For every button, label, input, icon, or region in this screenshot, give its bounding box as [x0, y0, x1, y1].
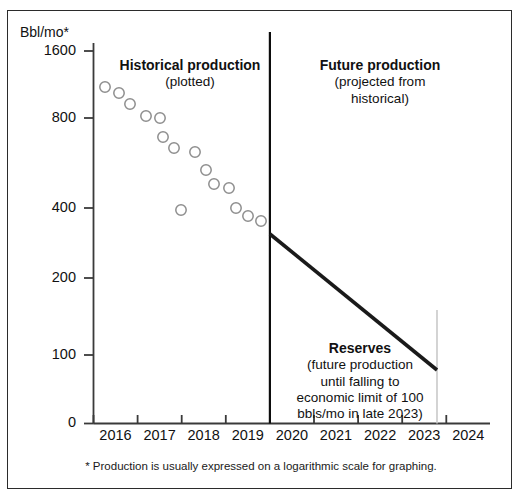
data-point: [190, 147, 200, 157]
chart-figure: Bbl/mo* 1600 800 400 200 100 0 2016 2017…: [0, 0, 522, 500]
x-tick-label-2020: 2020: [267, 427, 317, 445]
y-tick-label-100: 100: [18, 346, 76, 364]
y-tick-label-200: 200: [18, 269, 76, 287]
annotation-historical-header: Historical production: [110, 57, 270, 74]
data-point: [155, 113, 165, 123]
x-tick-label-2019: 2019: [223, 427, 273, 445]
y-tick-label-1600: 1600: [18, 42, 76, 60]
annotation-reserves-line3: economic limit of 100: [276, 390, 444, 406]
data-point: [243, 211, 253, 221]
chart-footnote: * Production is usually expressed on a l…: [0, 459, 522, 473]
data-point: [141, 111, 151, 121]
annotation-future-line2: historical): [290, 91, 470, 107]
data-point: [209, 179, 219, 189]
data-point: [125, 99, 135, 109]
y-tick-label-0: 0: [18, 414, 76, 432]
x-tick-label-2016: 2016: [91, 427, 141, 445]
data-point-outlier: [176, 205, 186, 215]
annotation-reserves-line4: bbls/mo in late 2023): [276, 406, 444, 422]
annotation-reserves-line2: until falling to: [276, 374, 444, 390]
x-tick-label-2017: 2017: [135, 427, 185, 445]
data-point: [224, 183, 234, 193]
y-axis-ticks: [84, 51, 94, 424]
x-tick-label-2018: 2018: [179, 427, 229, 445]
x-tick-label-2022: 2022: [355, 427, 405, 445]
data-point: [158, 132, 168, 142]
annotation-historical-production: Historical production (plotted): [110, 57, 270, 91]
annotation-future-line1: (projected from: [290, 74, 470, 90]
x-tick-label-2024: 2024: [443, 427, 493, 445]
historical-production-points: [100, 82, 266, 226]
data-point: [231, 203, 241, 213]
annotation-future-production: Future production (projected from histor…: [290, 57, 470, 107]
data-point: [256, 216, 266, 226]
data-point: [201, 165, 211, 175]
y-axis-unit-label: Bbl/mo*: [20, 24, 69, 41]
annotation-reserves-line1: (future production: [276, 357, 444, 373]
x-tick-label-2023: 2023: [399, 427, 449, 445]
y-tick-label-400: 400: [18, 199, 76, 217]
annotation-historical-line1: (plotted): [110, 74, 270, 90]
data-point: [169, 143, 179, 153]
x-tick-label-2021: 2021: [311, 427, 361, 445]
annotation-reserves: Reserves (future production until fallin…: [276, 340, 444, 423]
y-tick-label-800: 800: [18, 109, 76, 127]
annotation-reserves-header: Reserves: [276, 340, 444, 357]
data-point: [100, 82, 110, 92]
annotation-future-header: Future production: [290, 57, 470, 74]
